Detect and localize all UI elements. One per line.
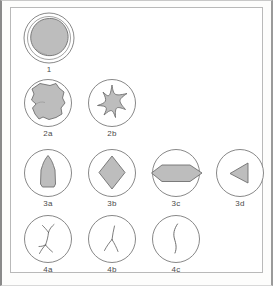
figure-item-label: 3b — [87, 199, 137, 209]
figure-item-4b: 4b — [87, 214, 137, 275]
shape-disc — [23, 12, 75, 64]
figure-item-4c: 4c — [151, 214, 201, 275]
shape-disc — [23, 214, 73, 264]
figure-item-2a: 2a — [23, 78, 73, 139]
shape-disc — [87, 214, 137, 264]
shape-disc — [87, 148, 137, 198]
figure-item-label: 4b — [87, 265, 137, 275]
figure-item-label: 1 — [23, 65, 75, 75]
figure-item-2b: 2b — [87, 78, 137, 139]
figure-item-3d: 3d — [215, 148, 265, 209]
shape-disc — [87, 78, 137, 128]
figure-item-label: 2a — [23, 129, 73, 139]
single-curved-line-in-circle-icon — [151, 214, 201, 264]
figure-item-1: 1 — [23, 12, 75, 75]
figure-item-3a: 3a — [23, 148, 73, 209]
rounded-blob-in-double-circle-icon — [23, 12, 75, 64]
diamond-in-circle-icon — [87, 148, 137, 198]
left-wedge-in-circle-icon — [215, 148, 265, 198]
shape-disc — [23, 148, 73, 198]
shape-disc — [151, 148, 201, 198]
elongated-hexagon-in-circle-icon — [147, 148, 205, 198]
figure-item-label: 3d — [215, 199, 265, 209]
figure-item-4a: 4a — [23, 214, 73, 275]
figure-item-3b: 3b — [87, 148, 137, 209]
figure-item-label: 3c — [151, 199, 201, 209]
figure-item-label: 4c — [151, 265, 201, 275]
figure-frame: 1 2a 2b — [0, 0, 273, 286]
figure-item-3c: 3c — [151, 148, 201, 209]
shape-disc — [151, 214, 201, 264]
shape-disc — [23, 78, 73, 128]
shape-disc — [215, 148, 265, 198]
figure-item-label: 3a — [23, 199, 73, 209]
figure-plate: 1 2a 2b — [10, 7, 263, 273]
figure-item-label: 4a — [23, 265, 73, 275]
triple-junction-line-in-circle-icon — [87, 214, 137, 264]
angular-blob-in-circle-icon — [23, 78, 73, 128]
bottle-pentagon-in-circle-icon — [23, 148, 73, 198]
figure-item-label: 2b — [87, 129, 137, 139]
concave-star-in-circle-icon — [87, 78, 137, 128]
double-branched-line-in-circle-icon — [23, 214, 73, 264]
